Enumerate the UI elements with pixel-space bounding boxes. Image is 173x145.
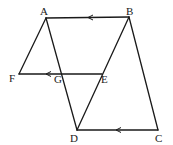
segment-af <box>19 18 46 74</box>
point-label-b: B <box>126 5 133 17</box>
segment-bc <box>129 17 158 130</box>
point-label-a: A <box>40 5 48 17</box>
point-label-c: C <box>155 132 162 144</box>
geometry-diagram: A B F G E D C <box>0 0 173 145</box>
point-label-f: F <box>9 72 15 84</box>
point-label-g: G <box>54 73 62 85</box>
point-label-e: E <box>101 73 108 85</box>
point-label-d: D <box>70 132 78 144</box>
